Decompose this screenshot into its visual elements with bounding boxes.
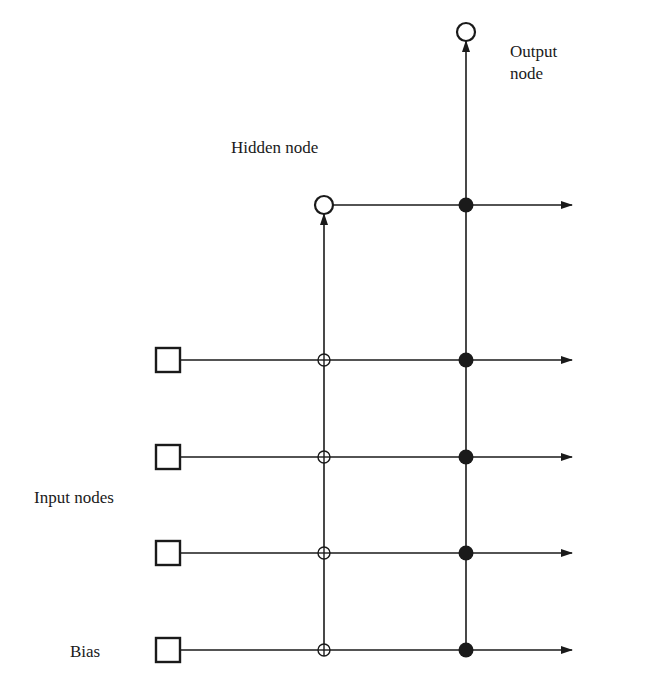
hidden-node-label: Hidden node bbox=[231, 138, 318, 158]
input-node-2 bbox=[156, 445, 180, 469]
trained-weight-hidden bbox=[459, 198, 474, 213]
input-node-1 bbox=[156, 348, 180, 372]
trained-weight-bias bbox=[459, 643, 474, 658]
trained-weight-3 bbox=[459, 546, 474, 561]
input-nodes-label: Input nodes bbox=[34, 488, 114, 508]
bias-label: Bias bbox=[70, 642, 100, 662]
frozen-weight-1 bbox=[318, 354, 330, 366]
output-node-label-line2: node bbox=[510, 64, 543, 84]
hidden-node-circle bbox=[315, 196, 333, 214]
output-node-label-line1: Output bbox=[510, 42, 557, 62]
input-node-3 bbox=[156, 541, 180, 565]
network-graphic bbox=[0, 0, 668, 696]
frozen-weight-3 bbox=[318, 547, 330, 559]
frozen-weight-2 bbox=[318, 451, 330, 463]
trained-weight-1 bbox=[459, 353, 474, 368]
cascade-correlation-diagram: Output node Hidden node Input nodes Bias bbox=[0, 0, 668, 696]
bias-node bbox=[156, 638, 180, 662]
trained-weight-2 bbox=[459, 450, 474, 465]
frozen-weight-bias bbox=[318, 644, 330, 656]
output-node-circle bbox=[457, 23, 475, 41]
